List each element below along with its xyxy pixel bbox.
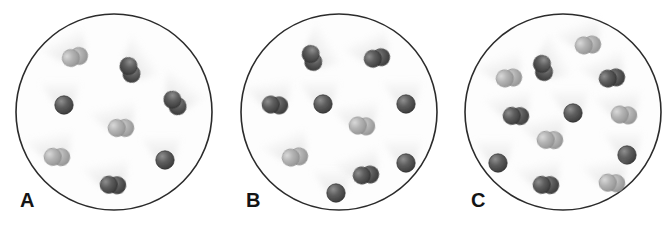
panel-a: A (0, 0, 224, 234)
panel-a-label: A (20, 190, 34, 210)
molecular-containers-figure: ABC (0, 0, 671, 234)
panel-b: B (224, 0, 448, 234)
panel-c: C (448, 0, 671, 234)
panel-b-label: B (246, 190, 260, 210)
panel-c-label: C (471, 190, 485, 210)
